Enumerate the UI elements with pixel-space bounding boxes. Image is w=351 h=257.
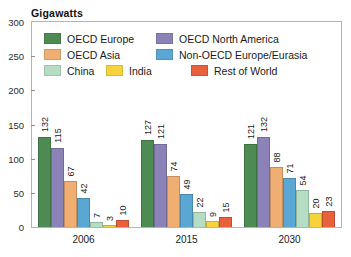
bar[interactable] <box>283 178 296 227</box>
legend-label: OECD Europe <box>67 33 134 45</box>
bar-chart: Gigawatts 050100150200250300 13211567427… <box>0 0 351 257</box>
legend-swatch <box>156 33 173 44</box>
bar[interactable] <box>219 217 232 227</box>
x-axis: 200620152030 <box>31 230 342 250</box>
bar[interactable] <box>309 213 322 227</box>
legend-item[interactable]: Non-OECD Europe/Eurasia <box>156 49 294 61</box>
legend-label: OECD Asia <box>67 49 120 61</box>
legend-swatch <box>191 65 208 76</box>
bar-value-label: 49 <box>182 179 191 189</box>
y-axis-tick-mark <box>31 90 35 91</box>
legend-swatch <box>44 65 61 76</box>
legend-item[interactable]: Rest of World <box>191 65 277 77</box>
bar[interactable] <box>103 225 116 227</box>
bar-value-label: 15 <box>221 202 230 212</box>
bar[interactable] <box>322 211 335 227</box>
bar-slot: 20 <box>309 22 322 227</box>
y-axis-tick-label: 100 <box>8 153 24 164</box>
legend-label: Non-OECD Europe/Eurasia <box>179 49 307 61</box>
y-axis-tick-mark <box>31 193 35 194</box>
y-axis-unit-title: Gigawatts <box>31 7 83 19</box>
bar[interactable] <box>64 181 77 227</box>
bar-value-label: 88 <box>272 152 281 162</box>
bar[interactable] <box>141 140 154 227</box>
legend-label: China <box>67 65 94 77</box>
bar-value-label: 10 <box>118 206 127 216</box>
bar-value-label: 20 <box>311 199 320 209</box>
legend-item[interactable]: OECD Asia <box>44 49 156 61</box>
bar[interactable] <box>90 222 103 227</box>
bar-value-label: 132 <box>40 117 49 132</box>
legend-item[interactable]: India <box>106 65 191 77</box>
legend-row: OECD AsiaNon-OECD Europe/Eurasia <box>44 47 294 62</box>
legend-label: Rest of World <box>214 65 277 77</box>
y-axis-tick-label: 250 <box>8 51 24 62</box>
bar[interactable] <box>180 194 193 227</box>
legend-label: OECD North America <box>179 33 279 45</box>
legend-row: OECD EuropeOECD North America <box>44 31 294 46</box>
bar[interactable] <box>77 198 90 227</box>
bar[interactable] <box>167 176 180 227</box>
bar-value-label: 71 <box>285 164 294 174</box>
legend-item[interactable]: China <box>44 65 106 77</box>
bar-value-label: 42 <box>79 184 88 194</box>
y-axis-tick-label: 50 <box>13 187 24 198</box>
y-axis-tick-mark <box>31 56 35 57</box>
chart-legend: OECD EuropeOECD North AmericaOECD AsiaNo… <box>44 31 294 79</box>
legend-item[interactable]: OECD North America <box>156 33 294 45</box>
bar-value-label: 127 <box>143 120 152 135</box>
bar[interactable] <box>206 221 219 227</box>
legend-row: ChinaIndiaRest of World <box>44 63 294 78</box>
legend-swatch <box>44 33 61 44</box>
bar-value-label: 9 <box>208 212 217 217</box>
bar[interactable] <box>270 167 283 227</box>
bar-value-label: 3 <box>105 216 114 221</box>
y-axis: 050100150200250300 <box>0 21 29 228</box>
bar-value-label: 115 <box>53 129 62 143</box>
x-axis-tick-label: 2030 <box>278 234 300 245</box>
bar-value-label: 121 <box>156 124 165 139</box>
bar-value-label: 67 <box>66 167 75 177</box>
legend-item[interactable]: OECD Europe <box>44 33 156 45</box>
y-axis-tick-label: 300 <box>8 17 24 28</box>
bar[interactable] <box>116 220 129 227</box>
legend-swatch <box>44 49 61 60</box>
bar[interactable] <box>296 190 309 227</box>
x-axis-tick-label: 2006 <box>72 234 94 245</box>
bar-value-label: 54 <box>298 176 307 186</box>
x-axis-tick-label: 2015 <box>175 234 197 245</box>
bar-slot: 23 <box>322 22 335 227</box>
bar[interactable] <box>154 144 167 227</box>
bar[interactable] <box>257 137 270 227</box>
y-axis-tick-label: 150 <box>8 119 24 130</box>
y-axis-tick-mark <box>31 159 35 160</box>
legend-label: India <box>129 65 152 77</box>
y-axis-tick-label: 200 <box>8 85 24 96</box>
legend-swatch <box>156 49 173 60</box>
bar-value-label: 74 <box>169 162 178 172</box>
y-axis-tick-label: 0 <box>19 222 24 233</box>
bar[interactable] <box>51 148 64 227</box>
legend-swatch <box>106 65 123 76</box>
bar[interactable] <box>193 212 206 227</box>
bar-value-label: 23 <box>324 197 333 207</box>
bar-value-label: 22 <box>195 197 204 207</box>
bar-value-label: 121 <box>246 124 255 139</box>
bar[interactable] <box>38 137 51 227</box>
bar[interactable] <box>244 144 257 227</box>
bar-value-label: 132 <box>259 117 268 132</box>
y-axis-tick-mark <box>31 125 35 126</box>
bar-value-label: 7 <box>92 213 101 218</box>
